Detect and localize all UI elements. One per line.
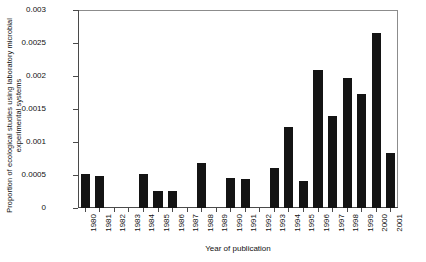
x-axis-tick-label: 2000 bbox=[380, 214, 389, 232]
bar-slot bbox=[299, 10, 308, 208]
x-axis-tick-label: 1986 bbox=[177, 214, 186, 232]
bar bbox=[343, 78, 352, 208]
bar-slot bbox=[168, 10, 177, 208]
x-axis-tick bbox=[303, 208, 304, 212]
x-axis-tick bbox=[99, 208, 100, 212]
bar bbox=[299, 181, 308, 208]
x-axis-tick-label: 1984 bbox=[147, 214, 156, 232]
bar bbox=[95, 176, 104, 208]
bar-slot bbox=[212, 10, 221, 208]
bar-slot bbox=[313, 10, 322, 208]
x-axis-tick bbox=[158, 208, 159, 212]
x-axis-tick bbox=[347, 208, 348, 212]
y-axis-tick-label: 0.002 bbox=[0, 71, 46, 80]
x-axis-tick bbox=[216, 208, 217, 212]
bar-series bbox=[78, 10, 398, 208]
bar bbox=[328, 116, 337, 208]
bar-slot bbox=[386, 10, 395, 208]
x-axis-tick bbox=[172, 208, 173, 212]
x-axis-tick bbox=[332, 208, 333, 212]
x-axis-tick bbox=[318, 208, 319, 212]
x-axis-tick bbox=[376, 208, 377, 212]
x-axis-tick-label: 1992 bbox=[264, 214, 273, 232]
x-axis-tick-label: 1987 bbox=[191, 214, 200, 232]
bar bbox=[241, 179, 250, 208]
x-axis-tick-label: 1994 bbox=[293, 214, 302, 232]
bar bbox=[139, 174, 148, 208]
y-axis-tick-label: 0 bbox=[0, 203, 46, 212]
x-axis-tick bbox=[390, 208, 391, 212]
x-axis-tick bbox=[114, 208, 115, 212]
bar-slot bbox=[183, 10, 192, 208]
bar-slot bbox=[255, 10, 264, 208]
bar-slot bbox=[357, 10, 366, 208]
bar bbox=[153, 191, 162, 208]
y-axis-title: Proportion of ecological studies using l… bbox=[2, 18, 26, 218]
bar bbox=[226, 178, 235, 208]
bar-slot bbox=[95, 10, 104, 208]
x-axis-tick-label: 1995 bbox=[307, 214, 316, 232]
bar-slot bbox=[284, 10, 293, 208]
bar-slot bbox=[81, 10, 90, 208]
y-axis-tick-label: 0.0005 bbox=[0, 170, 46, 179]
bar-slot bbox=[226, 10, 235, 208]
x-axis-tick bbox=[230, 208, 231, 212]
y-axis-tick-label: 0.001 bbox=[0, 137, 46, 146]
x-axis-tick-label: 1990 bbox=[235, 214, 244, 232]
x-axis-tick-label: 1983 bbox=[133, 214, 142, 232]
bar bbox=[386, 153, 395, 208]
y-axis-tick-label: 0.0025 bbox=[0, 38, 46, 47]
x-axis-tick bbox=[361, 208, 362, 212]
x-axis-tick-label: 1998 bbox=[351, 214, 360, 232]
bar-slot bbox=[372, 10, 381, 208]
x-axis-tick bbox=[201, 208, 202, 212]
x-axis-title: Year of publication bbox=[78, 244, 398, 253]
bar bbox=[81, 174, 90, 208]
bar-slot bbox=[110, 10, 119, 208]
x-axis-tick bbox=[85, 208, 86, 212]
y-axis-tick-label: 0.0015 bbox=[0, 104, 46, 113]
x-axis-tick bbox=[143, 208, 144, 212]
x-axis-tick-label: 1997 bbox=[337, 214, 346, 232]
x-axis-tick-label: 1989 bbox=[220, 214, 229, 232]
bar-slot bbox=[343, 10, 352, 208]
x-axis-tick-label: 1996 bbox=[322, 214, 331, 232]
x-axis-tick-label: 1993 bbox=[278, 214, 287, 232]
bar-slot bbox=[153, 10, 162, 208]
bar-slot bbox=[328, 10, 337, 208]
bar bbox=[197, 163, 206, 208]
bar bbox=[270, 168, 279, 208]
x-axis-tick bbox=[274, 208, 275, 212]
bar bbox=[357, 94, 366, 208]
bar-slot bbox=[124, 10, 133, 208]
bar-slot bbox=[197, 10, 206, 208]
bar bbox=[372, 33, 381, 208]
x-axis-tick-label: 1981 bbox=[104, 214, 113, 232]
x-axis-tick-label: 1982 bbox=[118, 214, 127, 232]
bar-chart-figure: Proportion of ecological studies using l… bbox=[0, 0, 426, 262]
bar-slot bbox=[270, 10, 279, 208]
x-axis-tick-label: 1985 bbox=[162, 214, 171, 232]
plot-area: 00.00050.0010.00150.0020.00250.003 19801… bbox=[78, 10, 398, 208]
bar-slot bbox=[139, 10, 148, 208]
bar-slot bbox=[241, 10, 250, 208]
x-axis-tick-label: 2001 bbox=[395, 214, 404, 232]
x-axis-tick bbox=[128, 208, 129, 212]
x-axis-tick-label: 1991 bbox=[249, 214, 258, 232]
x-axis-tick-label: 1988 bbox=[206, 214, 215, 232]
bar bbox=[313, 70, 322, 208]
x-axis-tick-label: 1980 bbox=[89, 214, 98, 232]
x-axis-tick-label: 1999 bbox=[366, 214, 375, 232]
x-axis-tick bbox=[259, 208, 260, 212]
x-axis-tick bbox=[187, 208, 188, 212]
bar bbox=[168, 191, 177, 208]
x-axis-tick bbox=[288, 208, 289, 212]
y-axis-tick-label: 0.003 bbox=[0, 5, 46, 14]
x-axis-tick bbox=[245, 208, 246, 212]
bar bbox=[284, 127, 293, 208]
